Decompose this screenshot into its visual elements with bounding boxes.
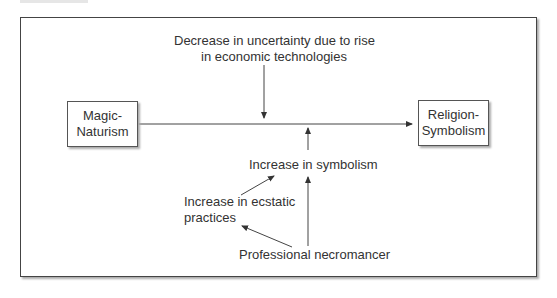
label-increase-ecstatic: Increase in ecstatic practices xyxy=(184,194,295,226)
node-religion-symbolism: Religion- Symbolism xyxy=(418,100,489,146)
label-ecstatic-line1: Increase in ecstatic xyxy=(184,194,295,210)
node-magic-line2: Naturism xyxy=(76,124,128,140)
node-magic-naturism: Magic- Naturism xyxy=(67,101,138,147)
label-uncertainty-line2: in economic technologies xyxy=(174,49,374,65)
label-ecstatic-line2: practices xyxy=(184,210,295,226)
label-increase-symbolism: Increase in symbolism xyxy=(249,157,378,173)
node-religion-line1: Religion- xyxy=(422,107,486,123)
label-uncertainty-line1: Decrease in uncertainty due to rise xyxy=(174,33,374,49)
label-uncertainty: Decrease in uncertainty due to rise in e… xyxy=(174,33,374,65)
node-magic-line1: Magic- xyxy=(76,108,128,124)
ecstatic-to-symbolism-arrow xyxy=(241,176,274,195)
label-professional-necromancer: Professional necromancer xyxy=(239,247,390,263)
necromancer-to-ecstatic-arrow xyxy=(242,226,292,247)
node-religion-line2: Symbolism xyxy=(422,123,486,139)
